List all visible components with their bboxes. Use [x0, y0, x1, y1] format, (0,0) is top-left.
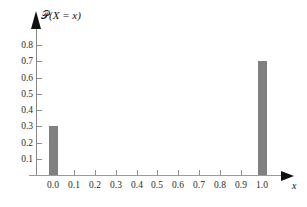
probability-symbol: 𝒫: [41, 9, 49, 22]
y-tick-mark: [37, 143, 42, 144]
x-tick-label: 1.0: [250, 180, 274, 190]
x-tick-mark: [137, 170, 138, 175]
y-axis-title: 𝒫(X = x): [41, 9, 81, 22]
y-tick-mark: [37, 159, 42, 160]
y-tick-label: 0.8: [8, 40, 33, 50]
x-tick-mark: [241, 170, 242, 175]
y-tick-mark: [37, 78, 42, 79]
x-axis-line: [29, 175, 285, 176]
y-tick-label: 0.4: [8, 105, 33, 115]
bar: [258, 61, 267, 175]
y-tick-label: 0.3: [8, 121, 33, 131]
x-tick-mark: [199, 170, 200, 175]
y-tick-mark: [37, 126, 42, 127]
x-tick-mark: [95, 170, 96, 175]
y-axis-arrow-icon: [31, 11, 41, 29]
y-axis-title-rest: (X = x): [49, 9, 81, 21]
x-tick-mark: [178, 170, 179, 175]
x-tick-mark: [74, 170, 75, 175]
x-tick-mark: [157, 170, 158, 175]
y-tick-mark: [37, 61, 42, 62]
y-tick-mark: [37, 45, 42, 46]
y-tick-label: 0.6: [8, 73, 33, 83]
y-tick-label: 0.7: [8, 56, 33, 66]
x-tick-mark: [220, 170, 221, 175]
y-tick-mark: [37, 110, 42, 111]
y-tick-label: 0.1: [8, 154, 33, 164]
x-tick-mark: [116, 170, 117, 175]
y-axis-line: [36, 28, 37, 176]
y-tick-mark: [37, 94, 42, 95]
y-tick-label: 0.5: [8, 89, 33, 99]
bernoulli-pmf-chart: 𝒫(X = x) x 0.1 0.2 0.3 0.4 0.5 0.6 0.7 0…: [0, 0, 307, 207]
x-axis-title: x: [292, 180, 296, 191]
y-tick-label: 0.2: [8, 138, 33, 148]
bar: [49, 126, 58, 175]
